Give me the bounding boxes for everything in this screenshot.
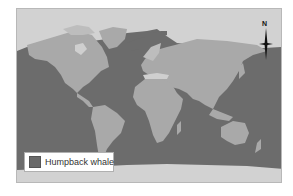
north-arrow: N	[258, 20, 274, 62]
legend-label-humpback-whale: Humpback whale	[45, 157, 114, 167]
map-legend: Humpback whale	[24, 152, 114, 172]
north-label: N	[262, 20, 267, 27]
legend-swatch-humpback-whale	[29, 156, 41, 168]
